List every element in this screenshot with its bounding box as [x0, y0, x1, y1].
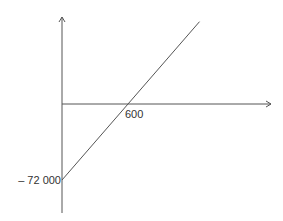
series-line-profit: [62, 22, 200, 180]
chart: 600 – 72 000: [0, 0, 283, 221]
x-intercept-label: 600: [125, 108, 143, 120]
y-intercept-label: – 72 000: [18, 174, 61, 186]
